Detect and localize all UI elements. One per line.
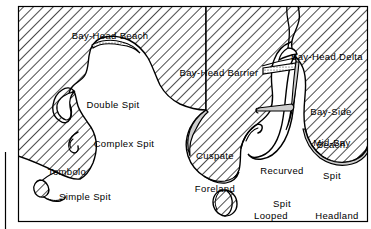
looped-barrier-island (213, 190, 237, 216)
tombolo-tied-island (34, 180, 49, 197)
coastline-map-svg (0, 0, 371, 229)
coastal-landforms-figure: Bay-Head Beach Double Spit Complex Spit … (0, 0, 371, 229)
